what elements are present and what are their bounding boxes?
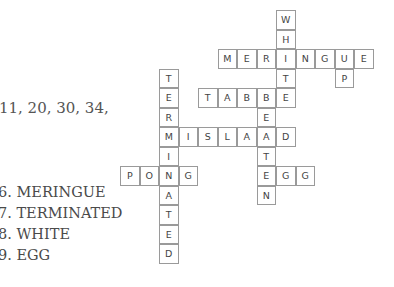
crossword-cell: E: [276, 88, 296, 108]
crossword-cell: W: [276, 10, 296, 30]
crossword-cell: E: [237, 49, 257, 69]
crossword-cell: G: [276, 166, 296, 186]
crossword-cell: E: [257, 166, 277, 186]
crossword-cell: B: [237, 88, 257, 108]
crossword-cell: N: [159, 166, 179, 186]
crossword-cell: E: [354, 49, 374, 69]
crossword-cell: E: [159, 88, 179, 108]
crossword-cell: R: [159, 108, 179, 128]
crossword-cell: I: [179, 127, 199, 147]
crossword-cell: T: [276, 69, 296, 89]
crossword-cell: H: [276, 30, 296, 50]
crossword-cell: M: [218, 49, 238, 69]
crossword-cell: U: [335, 49, 355, 69]
crossword-cell: B: [257, 88, 277, 108]
crossword-cell: E: [159, 225, 179, 245]
crossword-cell: P: [120, 166, 140, 186]
crossword-cell: M: [159, 127, 179, 147]
crossword-cell: G: [179, 166, 199, 186]
crossword-cell: D: [159, 244, 179, 264]
crossword-cell: N: [257, 186, 277, 206]
crossword-cell: I: [276, 49, 296, 69]
crossword-cell: E: [257, 108, 277, 128]
crossword-grid: PONGTERMIATEDISLAADTABBEWHITMERNGUEPETEN…: [0, 0, 394, 287]
crossword-cell: R: [257, 49, 277, 69]
crossword-cell: A: [237, 127, 257, 147]
crossword-cell: T: [159, 205, 179, 225]
crossword-cell: T: [257, 147, 277, 167]
crossword-cell: S: [198, 127, 218, 147]
crossword-cell: T: [198, 88, 218, 108]
crossword-cell: T: [159, 69, 179, 89]
crossword-cell: G: [296, 166, 316, 186]
crossword-cell: D: [276, 127, 296, 147]
crossword-cell: N: [296, 49, 316, 69]
crossword-cell: O: [140, 166, 160, 186]
crossword-cell: G: [315, 49, 335, 69]
crossword-cell: A: [218, 88, 238, 108]
crossword-cell: L: [218, 127, 238, 147]
crossword-cell: I: [159, 147, 179, 167]
crossword-cell: A: [257, 127, 277, 147]
crossword-cell: A: [159, 186, 179, 206]
crossword-cell: P: [335, 69, 355, 89]
